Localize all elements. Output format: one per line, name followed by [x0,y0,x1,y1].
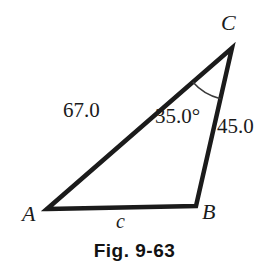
angle-measure-label-c: 35.0° [155,106,200,127]
vertex-label-a: A [22,203,35,225]
figure-caption: Fig. 9-63 [0,240,269,262]
side-length-label-ac: 67.0 [63,100,100,121]
triangle-outline [47,48,232,209]
figure-container: A B C 67.0 45.0 c 35.0° Fig. 9-63 [0,0,269,274]
vertex-label-c: C [221,12,236,34]
vertex-label-b: B [202,201,215,223]
side-length-label-cb: 45.0 [217,116,254,137]
side-length-label-ab: c [116,211,125,231]
